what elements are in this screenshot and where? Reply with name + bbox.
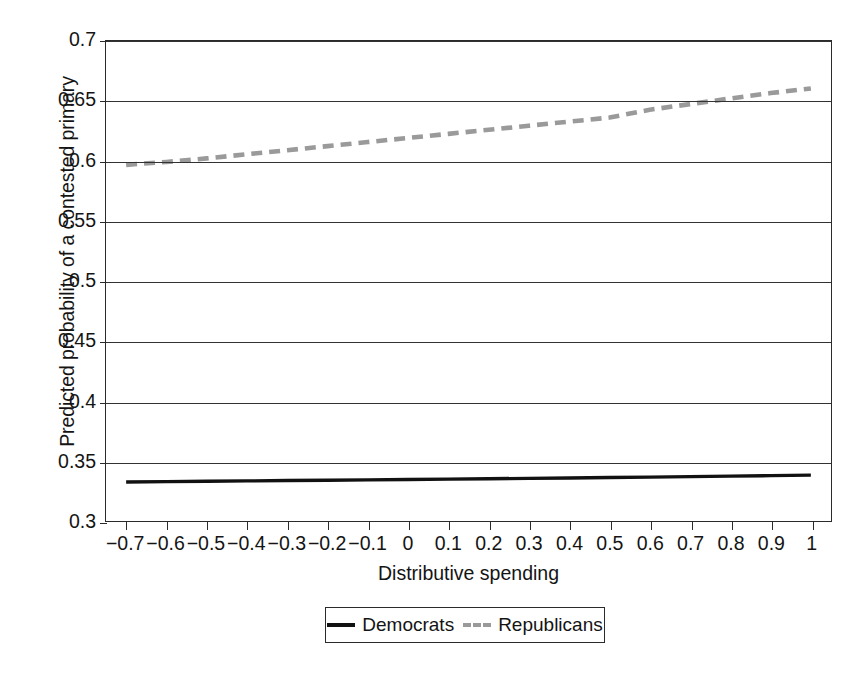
x-axis-tick-mark (490, 521, 491, 530)
x-axis-tick-label: 0.4 (556, 534, 583, 554)
x-axis-tick-label: 1 (806, 534, 817, 554)
y-axis-tick-label: 0.45 (44, 332, 96, 352)
y-axis-tick-label: 0.5 (44, 271, 96, 291)
x-axis-tick-mark (409, 521, 410, 530)
y-axis-tick-mark (100, 282, 107, 283)
x-axis-tick-mark (207, 521, 208, 530)
gridline (106, 162, 831, 163)
legend-label-republicans: Republicans (498, 614, 603, 636)
x-axis-tick-mark (167, 521, 168, 530)
series-line-republicans (126, 88, 811, 164)
x-axis-tick-label: −0.6 (146, 534, 185, 554)
y-axis-tick-mark (100, 41, 107, 42)
y-axis-tick-labels: 0.30.350.40.450.50.550.60.650.7 (44, 40, 96, 522)
x-axis-tick-label: 0 (402, 534, 413, 554)
x-axis-tick-mark (772, 521, 773, 530)
x-axis-tick-mark (611, 521, 612, 530)
legend-label-democrats: Democrats (362, 614, 454, 636)
gridline (106, 41, 831, 42)
y-axis-tick-label: 0.3 (44, 512, 96, 532)
x-axis-tick-mark (651, 521, 652, 530)
y-axis-tick-label: 0.65 (44, 91, 96, 111)
x-axis-tick-label: −0.3 (268, 534, 307, 554)
gridline (106, 222, 831, 223)
legend-swatch-solid-icon (327, 623, 355, 627)
x-axis-tick-mark (328, 521, 329, 530)
y-axis-tick-mark (100, 162, 107, 163)
x-axis-tick-mark (369, 521, 370, 530)
y-axis-tick-mark (100, 523, 107, 524)
x-axis-tick-label: 0.1 (435, 534, 462, 554)
x-axis-tick-mark (126, 521, 127, 530)
y-axis-tick-label: 0.7 (44, 30, 96, 50)
series-line-democrats (126, 475, 811, 482)
x-axis-tick-label: −0.2 (308, 534, 347, 554)
x-axis-tick-label: 0.8 (717, 534, 744, 554)
x-axis-tick-mark (247, 521, 248, 530)
x-axis-tick-labels: −0.7−0.6−0.5−0.4−0.3−0.2−0.100.10.20.30.… (105, 534, 832, 560)
x-axis-tick-mark (692, 521, 693, 530)
chart-figure: Predicted probability of a contested pri… (0, 0, 853, 674)
x-axis-tick-mark (732, 521, 733, 530)
plot-area (105, 40, 832, 522)
y-axis-tick-mark (100, 101, 107, 102)
x-axis-tick-label: 0.6 (637, 534, 664, 554)
legend-swatch-dashed-icon (463, 623, 491, 627)
x-axis-tick-label: −0.4 (227, 534, 266, 554)
y-axis-tick-mark (100, 222, 107, 223)
legend-entry-democrats: Democrats (327, 614, 454, 636)
x-axis-tick-mark (449, 521, 450, 530)
y-axis-tick-label: 0.55 (44, 211, 96, 231)
y-axis-tick-label: 0.4 (44, 392, 96, 412)
x-axis-tick-label: 0.7 (677, 534, 704, 554)
gridline (106, 403, 831, 404)
x-axis-tick-label: 0.9 (758, 534, 785, 554)
x-axis-tick-label: −0.7 (106, 534, 145, 554)
x-axis-tick-label: 0.5 (596, 534, 623, 554)
x-axis-tick-label: −0.1 (348, 534, 387, 554)
y-axis-tick-label: 0.6 (44, 151, 96, 171)
gridline (106, 282, 831, 283)
x-axis-tick-label: 0.2 (475, 534, 502, 554)
series-layer (106, 41, 831, 521)
chart-legend: Democrats Republicans (325, 607, 605, 643)
y-axis-tick-mark (100, 463, 107, 464)
x-axis-tick-mark (813, 521, 814, 530)
legend-entry-republicans: Republicans (463, 614, 603, 636)
gridline (106, 101, 831, 102)
gridline (106, 463, 831, 464)
y-axis-tick-mark (100, 403, 107, 404)
y-axis-tick-mark (100, 342, 107, 343)
x-axis-tick-mark (288, 521, 289, 530)
x-axis-tick-label: 0.3 (516, 534, 543, 554)
x-axis-tick-mark (530, 521, 531, 530)
x-axis-tick-mark (570, 521, 571, 530)
y-axis-tick-label: 0.35 (44, 452, 96, 472)
x-axis-title: Distributive spending (105, 562, 832, 585)
gridline (106, 342, 831, 343)
x-axis-tick-label: −0.5 (187, 534, 226, 554)
